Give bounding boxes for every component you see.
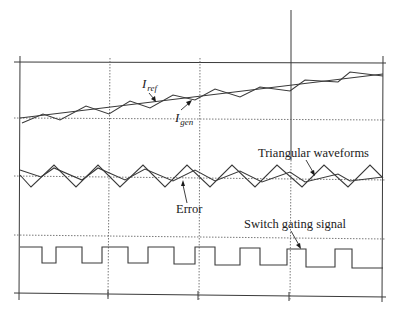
triangular-arrowhead xyxy=(310,170,315,176)
switch-gating-waveform xyxy=(20,247,383,268)
triangular-label: Triangular waveforms xyxy=(258,146,369,160)
switch-arrowhead xyxy=(296,243,301,249)
left-border-line xyxy=(19,56,20,300)
error-arrow xyxy=(183,185,187,203)
error-waveform xyxy=(20,168,383,182)
right-border-line xyxy=(382,56,383,302)
igen-label: Igen xyxy=(174,110,194,127)
carrier-panel: Triangular waveforms Error xyxy=(20,146,383,216)
gating-panel: Switch gating signal xyxy=(20,217,383,268)
triangular-arrow xyxy=(306,160,313,172)
bottom-border-line xyxy=(14,293,386,297)
igen-line xyxy=(22,72,383,123)
switch-label: Switch gating signal xyxy=(244,217,347,231)
grid-horizontal-3 xyxy=(14,235,386,239)
iref-label: Iref xyxy=(141,76,159,93)
error-arrowhead xyxy=(181,180,185,186)
grid-vertical-1 xyxy=(108,58,110,298)
error-label: Error xyxy=(176,202,203,216)
grid-vertical-2 xyxy=(199,58,200,300)
switch-arrow xyxy=(291,231,299,245)
waveform-diagram: Iref Igen Triangular waveforms Error Swi… xyxy=(0,0,395,312)
